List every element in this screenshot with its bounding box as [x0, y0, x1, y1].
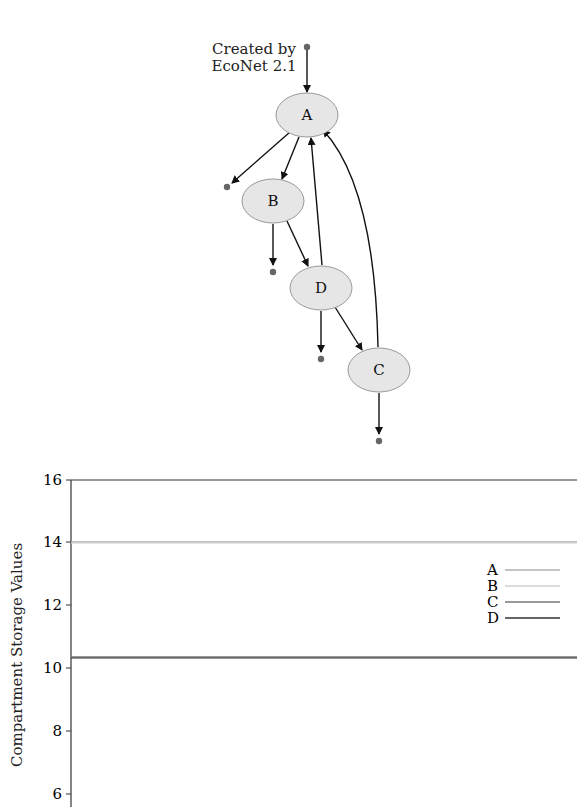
- edge-D-outflow: [318, 311, 324, 362]
- node-C: C: [348, 348, 410, 392]
- ytick-16: 16: [43, 471, 62, 489]
- storage-chart: Compartment Storage Values 16 14 12 10 8…: [0, 460, 577, 807]
- edge-D-to-A: [311, 138, 322, 265]
- sink-endpoint-icon: [224, 184, 230, 190]
- network-diagram: Created by EcoNet 2.1 A B: [0, 0, 577, 460]
- edge-C-outflow: [376, 393, 382, 444]
- ytick-12: 12: [43, 596, 62, 614]
- edge-D-to-C: [335, 307, 362, 350]
- edge-A-to-B: [282, 137, 299, 179]
- y-axis-label: Compartment Storage Values: [8, 543, 26, 767]
- node-A: A: [276, 93, 338, 137]
- node-B: B: [242, 179, 304, 223]
- y-ticks: 16 14 12 10 8 6: [43, 471, 71, 803]
- ytick-14: 14: [43, 533, 62, 551]
- edge-B-outflow: [270, 224, 276, 275]
- chart-legend: A B C D: [486, 561, 560, 627]
- node-D: D: [290, 266, 352, 310]
- edge-B-to-D: [287, 221, 308, 266]
- edge-C-to-A: [323, 130, 378, 347]
- sink-endpoint-icon: [318, 356, 324, 362]
- sink-endpoint-icon: [376, 438, 382, 444]
- ytick-10: 10: [43, 659, 62, 677]
- ytick-8: 8: [52, 722, 62, 740]
- node-B-label: B: [267, 192, 278, 210]
- ytick-6: 6: [52, 785, 62, 803]
- diagram-caption-line2: EcoNet 2.1: [211, 57, 296, 75]
- legend-label-D: D: [487, 609, 499, 627]
- node-D-label: D: [315, 279, 327, 297]
- sink-endpoint-icon: [270, 269, 276, 275]
- source-endpoint-icon: [304, 44, 310, 50]
- diagram-caption-line1: Created by: [212, 40, 296, 58]
- node-C-label: C: [373, 361, 384, 379]
- edge-input-to-A: [304, 44, 310, 92]
- node-A-label: A: [301, 106, 313, 124]
